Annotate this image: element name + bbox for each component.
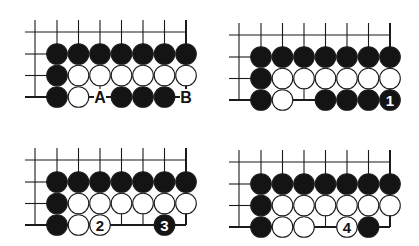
black-stone (294, 174, 315, 195)
black-stone (380, 47, 401, 68)
white-stone (176, 65, 197, 86)
black-stone (154, 172, 175, 193)
black-stone (47, 87, 68, 108)
move-number: 1 (386, 92, 394, 109)
white-stone (68, 215, 89, 236)
white-stone (68, 87, 89, 108)
white-stone (154, 65, 175, 86)
black-stone (154, 87, 175, 108)
diagram-3: 23 (25, 148, 196, 235)
white-stone (111, 193, 132, 214)
black-stone (90, 44, 111, 65)
white-stone (176, 193, 197, 214)
black-stone (154, 44, 175, 65)
white-stone (358, 68, 379, 89)
black-stone (358, 90, 379, 111)
black-stone (337, 90, 358, 111)
black-stone (133, 172, 154, 193)
black-stone (176, 172, 197, 193)
black-stone (111, 44, 132, 65)
black-stone (358, 217, 379, 238)
white-stone (154, 193, 175, 214)
diagram-1: AB (25, 20, 196, 107)
point-label-a: A (94, 89, 106, 106)
black-stone (47, 215, 68, 236)
white-stone (90, 65, 111, 86)
white-stone (133, 193, 154, 214)
white-stone-move-2: 2 (90, 215, 111, 236)
white-stone (337, 68, 358, 89)
white-stone-move-4: 4 (337, 217, 358, 238)
black-stone (68, 44, 89, 65)
black-stone (315, 90, 336, 111)
move-number: 3 (160, 217, 168, 234)
black-stone (176, 44, 197, 65)
black-stone (337, 174, 358, 195)
white-stone (294, 68, 315, 89)
black-stone (251, 217, 272, 238)
black-stone (358, 47, 379, 68)
black-stone (47, 65, 68, 86)
black-stone-move-1: 1 (380, 90, 401, 111)
black-stone-move-3: 3 (154, 215, 175, 236)
diagram-2: 1 (229, 23, 400, 110)
white-stone (272, 217, 293, 238)
move-number: 2 (96, 217, 104, 234)
white-stone (315, 68, 336, 89)
white-stone (68, 193, 89, 214)
black-stone (294, 47, 315, 68)
black-stone (272, 174, 293, 195)
black-stone (90, 172, 111, 193)
black-stone (111, 87, 132, 108)
white-stone (337, 195, 358, 216)
black-stone (380, 174, 401, 195)
white-stone (380, 68, 401, 89)
black-stone (315, 174, 336, 195)
black-stone (251, 174, 272, 195)
black-stone (358, 174, 379, 195)
stones: 1 (251, 47, 401, 111)
white-stone (68, 65, 89, 86)
white-stone (272, 195, 293, 216)
black-stone (133, 44, 154, 65)
black-stone (111, 172, 132, 193)
black-stone (337, 47, 358, 68)
white-stone (358, 195, 379, 216)
white-stone (111, 65, 132, 86)
white-stone (272, 90, 293, 111)
white-stone (294, 217, 315, 238)
black-stone (251, 47, 272, 68)
black-stone (251, 195, 272, 216)
stones (47, 44, 197, 108)
white-stone (272, 68, 293, 89)
white-stone (294, 195, 315, 216)
black-stone (47, 193, 68, 214)
move-number: 4 (343, 219, 352, 236)
black-stone (251, 90, 272, 111)
white-stone (90, 193, 111, 214)
black-stone (133, 87, 154, 108)
black-stone (47, 44, 68, 65)
black-stone (47, 172, 68, 193)
black-stone (251, 68, 272, 89)
black-stone (68, 172, 89, 193)
white-stone (133, 65, 154, 86)
black-stone (315, 47, 336, 68)
white-stone (380, 195, 401, 216)
point-label-b: B (180, 89, 192, 106)
white-stone (315, 195, 336, 216)
go-diagrams: AB1234 (0, 0, 419, 246)
diagram-4: 4 (229, 150, 400, 237)
black-stone (272, 47, 293, 68)
